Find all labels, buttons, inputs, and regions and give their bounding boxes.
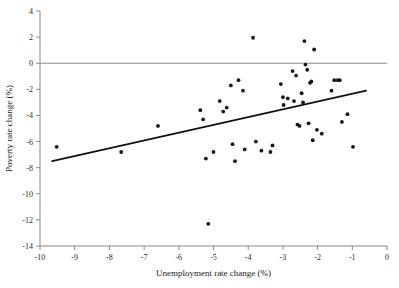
data-point bbox=[298, 124, 302, 128]
data-point bbox=[269, 150, 273, 154]
data-point bbox=[292, 99, 296, 103]
data-point bbox=[282, 103, 286, 107]
data-point bbox=[346, 112, 350, 116]
y-tick-label: 2 bbox=[29, 33, 33, 42]
x-tick-label: -4 bbox=[245, 253, 252, 262]
linear-fit bbox=[52, 91, 366, 162]
data-point bbox=[231, 142, 235, 146]
data-point bbox=[212, 150, 216, 154]
data-point bbox=[291, 69, 295, 73]
x-tick-label: -1 bbox=[349, 253, 356, 262]
x-tick-label: -5 bbox=[210, 253, 217, 262]
data-point bbox=[225, 106, 229, 110]
axis-tick-labels: 420-2-4-6-8-10-12-14-10-9-8-7-6-5-4-3-2-… bbox=[22, 7, 389, 262]
data-point bbox=[243, 147, 247, 151]
y-tick-label: -8 bbox=[26, 164, 33, 173]
data-point bbox=[300, 91, 304, 95]
x-tick-label: -10 bbox=[35, 253, 46, 262]
data-point bbox=[233, 159, 237, 163]
data-point bbox=[241, 89, 245, 93]
x-axis bbox=[40, 246, 387, 250]
data-point bbox=[294, 74, 298, 78]
y-tick-label: -14 bbox=[22, 242, 33, 251]
data-point bbox=[221, 110, 225, 114]
x-tick-label: -9 bbox=[71, 253, 78, 262]
data-point bbox=[311, 138, 315, 142]
y-tick-label: 0 bbox=[29, 59, 33, 68]
data-point bbox=[307, 121, 311, 125]
data-point bbox=[279, 82, 283, 86]
trend-line bbox=[52, 91, 366, 162]
x-tick-label: -6 bbox=[175, 253, 182, 262]
data-point bbox=[229, 84, 233, 88]
data-point bbox=[351, 145, 355, 149]
data-point bbox=[315, 128, 319, 132]
data-point bbox=[304, 63, 308, 67]
data-point-series bbox=[55, 36, 355, 226]
x-axis-title: Unemployment rate change (%) bbox=[156, 268, 271, 278]
y-tick-label: 4 bbox=[29, 7, 33, 16]
data-point bbox=[281, 95, 285, 99]
data-point bbox=[201, 117, 205, 121]
data-point bbox=[206, 222, 210, 226]
y-tick-label: -10 bbox=[22, 190, 33, 199]
data-point bbox=[305, 68, 309, 72]
data-point bbox=[204, 157, 208, 161]
data-point bbox=[218, 99, 222, 103]
data-point bbox=[340, 120, 344, 124]
y-tick-label: -4 bbox=[26, 111, 33, 120]
x-tick-label: -3 bbox=[280, 253, 287, 262]
data-point bbox=[237, 78, 241, 82]
data-point bbox=[259, 149, 263, 153]
data-point bbox=[251, 36, 255, 40]
data-point bbox=[198, 108, 202, 112]
data-point bbox=[338, 78, 342, 82]
data-point bbox=[156, 124, 160, 128]
data-point bbox=[271, 144, 275, 148]
data-point bbox=[119, 150, 123, 154]
y-tick-label: -6 bbox=[26, 138, 33, 147]
data-point bbox=[303, 39, 307, 43]
scatter-chart-figure: 420-2-4-6-8-10-12-14-10-9-8-7-6-5-4-3-2-… bbox=[0, 0, 399, 288]
y-tick-label: -2 bbox=[26, 85, 33, 94]
data-point bbox=[330, 89, 334, 93]
data-point bbox=[254, 140, 258, 144]
data-point bbox=[320, 132, 324, 136]
data-point bbox=[286, 97, 290, 101]
x-tick-label: -7 bbox=[141, 253, 148, 262]
x-tick-label: -8 bbox=[106, 253, 113, 262]
x-tick-label: 0 bbox=[385, 253, 389, 262]
data-point bbox=[55, 145, 59, 149]
data-point bbox=[309, 80, 313, 84]
plot-canvas: 420-2-4-6-8-10-12-14-10-9-8-7-6-5-4-3-2-… bbox=[0, 0, 399, 288]
x-tick-label: -2 bbox=[314, 253, 321, 262]
y-tick-label: -12 bbox=[22, 216, 33, 225]
data-point bbox=[312, 48, 316, 52]
y-axis-title: Poverty rate change (%) bbox=[4, 85, 14, 172]
y-axis bbox=[36, 11, 40, 246]
data-point bbox=[332, 78, 336, 82]
